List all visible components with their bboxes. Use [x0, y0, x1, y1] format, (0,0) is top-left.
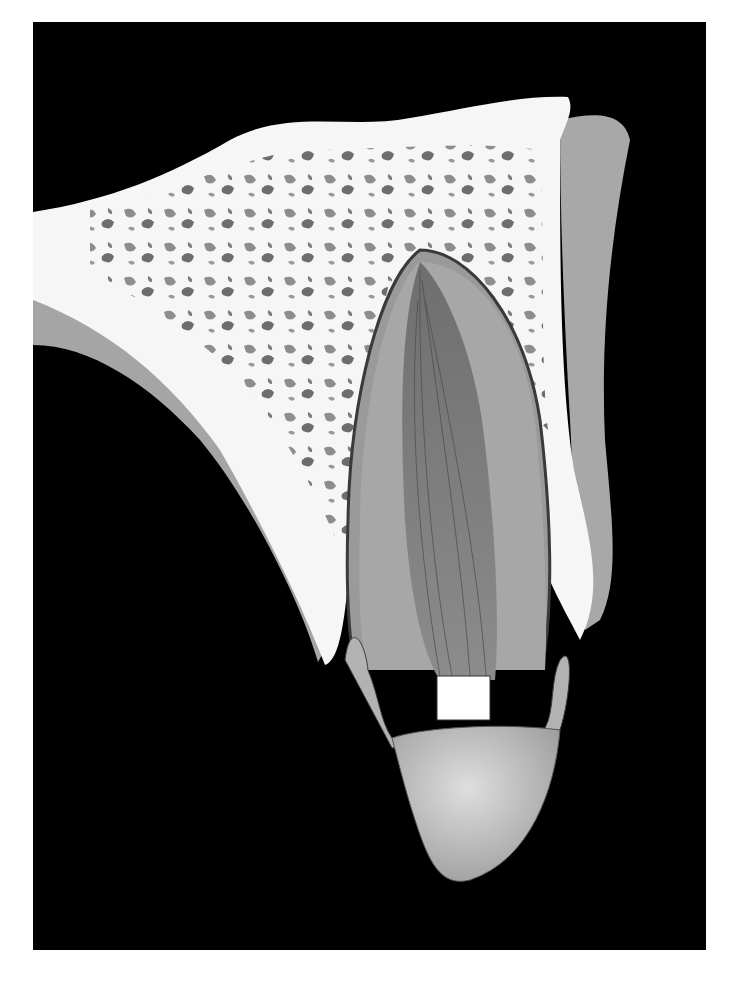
- tooth-cross-section-illustration: [0, 0, 729, 999]
- blank-label-box: [437, 676, 490, 720]
